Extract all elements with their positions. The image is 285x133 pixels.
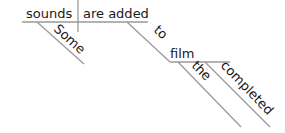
word-completed: completed (218, 58, 277, 118)
word-predicate: are added (83, 6, 149, 21)
word-subject: sounds (26, 6, 72, 21)
word-film: film (170, 46, 194, 61)
sentence-diagram: sounds are added Some to film the comple… (0, 0, 285, 133)
word-to: to (151, 22, 171, 42)
